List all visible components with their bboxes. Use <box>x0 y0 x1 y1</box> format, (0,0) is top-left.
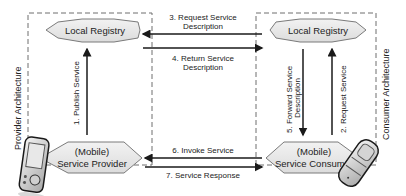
svg-text:7. Service Response: 7. Service Response <box>166 171 240 180</box>
provider-registry-label: Local Registry <box>65 25 125 36</box>
consumer-service-label-1: (Mobile) <box>297 146 331 157</box>
step-5-forward-service-description: 5. Forward Service Description <box>285 49 303 135</box>
svg-text:3. Request Service: 3. Request Service <box>169 13 237 22</box>
provider-local-registry[interactable]: Local Registry <box>46 19 146 42</box>
provider-service-label-1: (Mobile) <box>75 146 109 157</box>
provider-architecture-label: Provider Architecture <box>13 66 23 150</box>
svg-text:Description: Description <box>293 78 302 118</box>
consumer-architecture-label: Consumer Architecture <box>381 48 391 140</box>
step-3-request-service-description: 3. Request Service Description <box>143 13 262 34</box>
svg-text:Description: Description <box>183 22 223 31</box>
svg-text:4. Return Service: 4. Return Service <box>172 54 234 63</box>
step-4-return-service-description: 4. Return Service Description <box>143 48 262 72</box>
svg-text:6. Invoke Service: 6. Invoke Service <box>172 146 234 155</box>
consumer-registry-label: Local Registry <box>288 25 348 36</box>
architecture-diagram: Provider Architecture Consumer Architect… <box>0 0 406 196</box>
step-6-invoke-service: 6. Invoke Service <box>145 146 262 158</box>
step-2-request-service: 2. Request Service <box>332 49 348 135</box>
svg-text:2. Request Service: 2. Request Service <box>339 65 348 133</box>
svg-text:Description: Description <box>183 63 223 72</box>
provider-service-label-2: Service Provider <box>57 158 127 169</box>
step-1-publish-service: 1. Publish Service <box>72 49 87 135</box>
mobile-service-provider[interactable]: (Mobile) Service Provider <box>40 141 142 173</box>
consumer-local-registry[interactable]: Local Registry <box>270 19 366 42</box>
svg-text:1. Publish Service: 1. Publish Service <box>72 60 81 125</box>
step-7-service-response: 7. Service Response <box>145 167 262 180</box>
